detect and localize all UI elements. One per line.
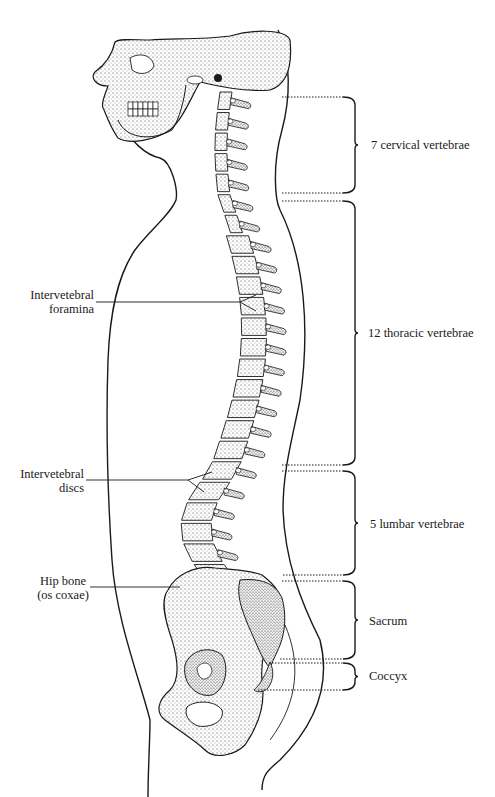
vertebral-column <box>181 92 286 582</box>
label-coccyx: Coccyx <box>369 669 407 683</box>
bracket-lumbar <box>343 471 358 575</box>
teeth <box>128 102 158 116</box>
spine-diagram <box>0 0 495 797</box>
label-intervertebral-discs: Intervetebral discs <box>4 467 84 495</box>
label-sacrum: Sacrum <box>369 614 407 628</box>
bracket-sacrum <box>343 581 358 659</box>
bracket-coccyx <box>343 663 358 690</box>
label-thoracic-vertebrae: 12 thoracic vertebrae <box>368 326 474 340</box>
bracket-thoracic <box>343 201 358 465</box>
label-hip-bone: Hip bone (os coxae) <box>28 574 98 602</box>
bracket-cervical <box>343 97 358 193</box>
skull <box>93 31 290 141</box>
hip-bone-drawing <box>159 567 295 755</box>
label-cervical-vertebrae: 7 cervical vertebrae <box>371 138 470 152</box>
label-intervertebral-foramina: Intervetebral foramina <box>14 288 94 316</box>
label-lumbar-vertebrae: 5 lumbar vertebrae <box>370 517 464 531</box>
